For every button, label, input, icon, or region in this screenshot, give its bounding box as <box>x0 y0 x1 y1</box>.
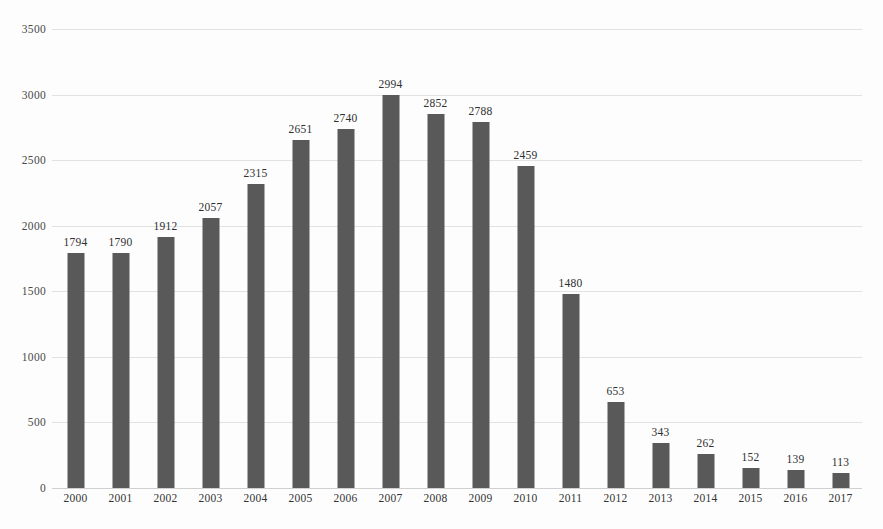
bar <box>517 166 534 488</box>
bar <box>247 184 264 488</box>
bar <box>472 122 489 488</box>
bar <box>427 114 444 488</box>
bar-group: 14802011 <box>548 0 593 529</box>
x-axis-tick-label: 2016 <box>784 492 808 504</box>
x-axis-tick-label: 2003 <box>199 492 223 504</box>
bar-value-label: 2788 <box>469 105 493 117</box>
bar-value-label: 113 <box>832 456 849 468</box>
bar-group: 1392016 <box>773 0 818 529</box>
bar-value-label: 262 <box>697 437 715 449</box>
bar-value-label: 2651 <box>289 123 313 135</box>
bar <box>67 253 84 488</box>
bar-group: 17902001 <box>98 0 143 529</box>
bar-value-label: 2315 <box>244 167 268 179</box>
bar <box>832 473 849 488</box>
bar-group: 17942000 <box>53 0 98 529</box>
bar-value-label: 343 <box>652 426 670 438</box>
x-axis-tick-label: 2011 <box>559 492 582 504</box>
y-axis-tick-label: 3500 <box>0 23 46 35</box>
bar-group: 29942007 <box>368 0 413 529</box>
x-axis-tick-label: 2017 <box>829 492 853 504</box>
y-axis-tick-label: 1000 <box>0 351 46 363</box>
x-axis-tick-label: 2014 <box>694 492 718 504</box>
bar-group: 3432013 <box>638 0 683 529</box>
bar-group: 23152004 <box>233 0 278 529</box>
bar-group: 27882009 <box>458 0 503 529</box>
bar <box>292 140 309 488</box>
x-axis-tick-label: 2009 <box>469 492 493 504</box>
x-axis-tick-label: 2005 <box>289 492 313 504</box>
bar-value-label: 1480 <box>559 277 583 289</box>
x-axis-tick-label: 2015 <box>739 492 763 504</box>
bars-layer: 1794200017902001191220022057200323152004… <box>52 0 862 529</box>
bar-value-label: 152 <box>742 451 760 463</box>
bar-group: 19122002 <box>143 0 188 529</box>
bar <box>652 443 669 488</box>
x-axis-tick-label: 2001 <box>109 492 133 504</box>
bar <box>112 253 129 488</box>
bar-group: 6532012 <box>593 0 638 529</box>
y-axis-tick-label: 2500 <box>0 154 46 166</box>
bar-value-label: 2740 <box>334 112 358 124</box>
bar-group: 24592010 <box>503 0 548 529</box>
bar <box>337 129 354 488</box>
bar-group: 1522015 <box>728 0 773 529</box>
bar-value-label: 1912 <box>154 220 178 232</box>
bar <box>202 218 219 488</box>
bar-group: 20572003 <box>188 0 233 529</box>
x-axis-tick-label: 2010 <box>514 492 538 504</box>
y-axis-tick-label: 3000 <box>0 89 46 101</box>
bar <box>742 468 759 488</box>
bar-value-label: 1794 <box>64 236 88 248</box>
y-axis-tick-label: 2000 <box>0 220 46 232</box>
bar-group: 28522008 <box>413 0 458 529</box>
bar <box>382 95 399 488</box>
x-axis-tick-label: 2004 <box>244 492 268 504</box>
bar <box>787 470 804 488</box>
bar-group: 2622014 <box>683 0 728 529</box>
x-axis-tick-label: 2006 <box>334 492 358 504</box>
x-axis-tick-label: 2008 <box>424 492 448 504</box>
x-axis-tick-label: 2007 <box>379 492 403 504</box>
bar-chart: 3500300025002000150010005000 17942000179… <box>0 0 883 529</box>
bar <box>157 237 174 488</box>
x-axis-tick-label: 2002 <box>154 492 178 504</box>
bar <box>562 294 579 488</box>
bar-value-label: 1790 <box>109 236 133 248</box>
bar-value-label: 2459 <box>514 149 538 161</box>
x-axis-tick-label: 2012 <box>604 492 628 504</box>
bar-value-label: 653 <box>607 385 625 397</box>
bar-value-label: 2852 <box>424 97 448 109</box>
bar <box>697 454 714 488</box>
x-axis-tick-label: 2013 <box>649 492 673 504</box>
bar-value-label: 2994 <box>379 78 403 90</box>
bar-group: 27402006 <box>323 0 368 529</box>
y-axis-tick-label: 1500 <box>0 285 46 297</box>
bar-value-label: 2057 <box>199 201 223 213</box>
bar <box>607 402 624 488</box>
y-axis-tick-label: 0 <box>0 482 46 494</box>
bar-group: 1132017 <box>818 0 863 529</box>
x-axis-tick-label: 2000 <box>64 492 88 504</box>
bar-group: 26512005 <box>278 0 323 529</box>
y-axis-tick-label: 500 <box>0 416 46 428</box>
bar-value-label: 139 <box>787 453 805 465</box>
